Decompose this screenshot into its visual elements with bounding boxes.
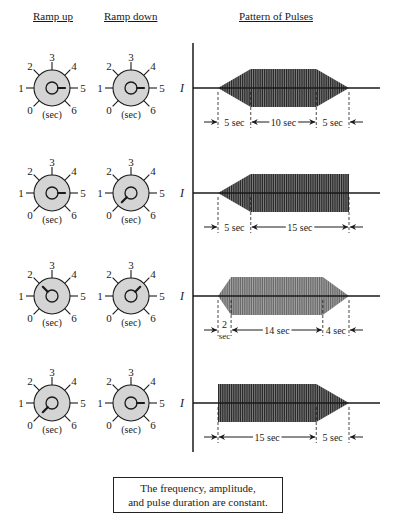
svg-text:2: 2 [106, 165, 112, 177]
svg-text:2: 2 [27, 60, 33, 72]
svg-text:4: 4 [150, 375, 156, 387]
svg-text:5: 5 [159, 187, 165, 199]
svg-text:6: 6 [71, 104, 77, 116]
pattern-row-1: 0123456(sec)0123456(sec)I5 sec10 sec5 se… [18, 51, 380, 128]
svg-text:(sec): (sec) [42, 317, 61, 329]
intensity-label: I [179, 396, 185, 410]
ramp-up-dial: 0123456(sec) [18, 51, 86, 121]
ramp-down-dial: 0123456(sec) [97, 366, 165, 436]
intensity-label: I [179, 81, 185, 95]
segment-label: 5 sec [224, 222, 245, 233]
svg-text:6: 6 [71, 312, 77, 324]
pulse-pattern-diagram: 0123456(sec)0123456(sec)I5 sec10 sec5 se… [0, 0, 401, 528]
segment-label: 2 [222, 319, 227, 330]
segment-label: 5 sec [322, 432, 343, 443]
svg-text:1: 1 [97, 82, 103, 94]
svg-text:(sec): (sec) [121, 317, 140, 329]
pattern-row-2: 0123456(sec)0123456(sec)I5 sec15 sec [18, 156, 380, 233]
svg-text:4: 4 [71, 268, 77, 280]
ramp-up-dial: 0123456(sec) [18, 259, 86, 329]
svg-text:(sec): (sec) [121, 424, 140, 436]
segment-label: 15 sec [254, 432, 280, 443]
svg-text:1: 1 [18, 290, 24, 302]
ramp-down-dial: 0123456(sec) [97, 156, 165, 226]
svg-text:6: 6 [71, 209, 77, 221]
svg-text:0: 0 [27, 312, 33, 324]
svg-text:4: 4 [71, 165, 77, 177]
segment-label: 5 sec [322, 117, 343, 128]
ramp-up-dial: 0123456(sec) [18, 156, 86, 226]
segment-label: 4 sec [326, 325, 347, 336]
svg-text:4: 4 [150, 165, 156, 177]
svg-text:2: 2 [106, 375, 112, 387]
svg-text:2: 2 [27, 165, 33, 177]
intensity-label: I [179, 289, 185, 303]
ramp-down-dial: 0123456(sec) [97, 51, 165, 121]
svg-text:4: 4 [71, 60, 77, 72]
svg-text:5: 5 [159, 290, 165, 302]
svg-text:5: 5 [159, 82, 165, 94]
svg-text:3: 3 [49, 51, 55, 63]
svg-text:6: 6 [150, 104, 156, 116]
svg-text:2: 2 [106, 60, 112, 72]
svg-text:(sec): (sec) [42, 109, 61, 121]
svg-text:5: 5 [80, 397, 86, 409]
svg-text:0: 0 [27, 419, 33, 431]
svg-text:3: 3 [49, 259, 55, 271]
svg-text:5: 5 [80, 82, 86, 94]
ramp-up-dial: 0123456(sec) [18, 366, 86, 436]
svg-text:(sec): (sec) [121, 109, 140, 121]
svg-text:5: 5 [80, 290, 86, 302]
svg-text:0: 0 [106, 209, 112, 221]
svg-text:2: 2 [27, 268, 33, 280]
svg-text:0: 0 [106, 312, 112, 324]
svg-text:6: 6 [150, 209, 156, 221]
note-line-2: and pulse duration are constant. [114, 495, 282, 509]
segment-label: 10 sec [271, 117, 297, 128]
intensity-label: I [179, 186, 185, 200]
svg-text:6: 6 [71, 419, 77, 431]
svg-text:0: 0 [106, 419, 112, 431]
note-line-1: The frequency, amplitude, [114, 481, 282, 495]
svg-text:0: 0 [27, 104, 33, 116]
svg-text:4: 4 [150, 268, 156, 280]
svg-text:3: 3 [49, 366, 55, 378]
svg-text:4: 4 [150, 60, 156, 72]
svg-text:4: 4 [71, 375, 77, 387]
svg-text:3: 3 [128, 51, 134, 63]
svg-text:(sec): (sec) [42, 214, 61, 226]
svg-text:1: 1 [97, 290, 103, 302]
svg-text:1: 1 [97, 397, 103, 409]
segment-label: 15 sec [287, 222, 313, 233]
segment-label: 14 sec [264, 325, 290, 336]
svg-text:3: 3 [49, 156, 55, 168]
svg-text:1: 1 [97, 187, 103, 199]
svg-text:3: 3 [128, 156, 134, 168]
ramp-down-dial: 0123456(sec) [97, 259, 165, 329]
svg-text:6: 6 [150, 312, 156, 324]
svg-text:6: 6 [150, 419, 156, 431]
pattern-row-4: 0123456(sec)0123456(sec)I15 sec5 sec [18, 366, 380, 443]
svg-text:(sec): (sec) [42, 424, 61, 436]
svg-text:0: 0 [27, 209, 33, 221]
svg-text:2: 2 [106, 268, 112, 280]
svg-text:5: 5 [159, 397, 165, 409]
svg-text:sec: sec [219, 331, 231, 341]
svg-text:3: 3 [128, 259, 134, 271]
svg-text:0: 0 [106, 104, 112, 116]
svg-text:2: 2 [27, 375, 33, 387]
svg-text:1: 1 [18, 187, 24, 199]
segment-label: 5 sec [224, 117, 245, 128]
svg-text:1: 1 [18, 397, 24, 409]
svg-text:(sec): (sec) [121, 214, 140, 226]
svg-text:5: 5 [80, 187, 86, 199]
svg-text:3: 3 [128, 366, 134, 378]
note-box: The frequency, amplitude, and pulse dura… [113, 477, 283, 513]
pattern-row-3: 0123456(sec)0123456(sec)I2sec14 sec4 sec [18, 259, 380, 341]
svg-text:1: 1 [18, 82, 24, 94]
